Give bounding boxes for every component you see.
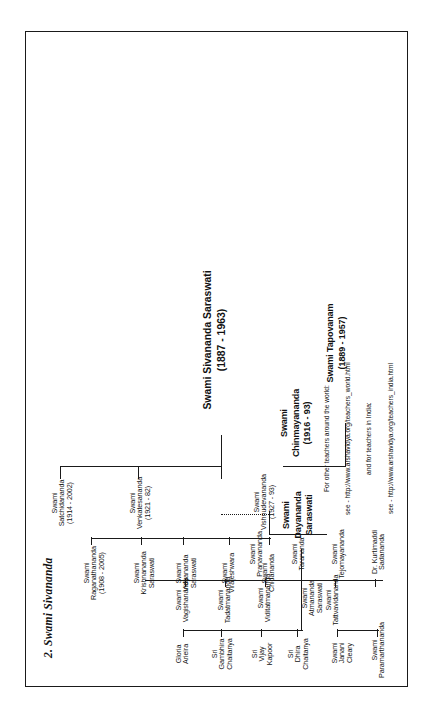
connector-gen3-stub-3 bbox=[229, 537, 230, 545]
connector-gen3-stub-0 bbox=[91, 537, 92, 545]
node-gen2-3: Swami Chinmayananda(1916 - 93) bbox=[279, 357, 314, 489]
node-disciple-3-name: Sri Dhira Chaitanya bbox=[286, 638, 310, 669]
node-disciple-11: Swami Janani Cleary bbox=[331, 627, 353, 679]
connector-disciple-a0 bbox=[183, 629, 184, 637]
connector-disciple-trunk-b bbox=[183, 580, 383, 581]
node-gen2-1-dates: (1921 - 82) bbox=[143, 486, 152, 520]
connector-gen3-trunk bbox=[91, 538, 271, 539]
node-root: Swami Sivananda Saraswati(1887 - 1963) bbox=[201, 245, 229, 435]
node-disciple-4: Swami Vagishananda bbox=[175, 569, 190, 631]
connector-dotted-chinmayananda bbox=[221, 514, 269, 515]
node-disciple-7: Swami Tattvavidananda bbox=[325, 567, 340, 633]
connector-disciple-trunk-a bbox=[183, 630, 303, 631]
node-disciple-7-name: Swami Tattvavidananda bbox=[324, 575, 340, 626]
connector-gen2-0 bbox=[60, 467, 61, 479]
node-disciple-11-name: Swami Janani Cleary bbox=[330, 642, 354, 663]
node-gen3-9: Dr. Kurtimaddi Sadananda bbox=[371, 517, 386, 587]
node-gen2-0: Swami Satchidananda (1914 - 2002) bbox=[51, 471, 73, 535]
connector-root-spine bbox=[221, 435, 222, 467]
footer-line-3: and for teachers in India: bbox=[364, 362, 375, 515]
connector-gen2-2 bbox=[221, 467, 222, 479]
connector-root-vertical bbox=[60, 466, 222, 467]
connector-disciple-a2 bbox=[261, 629, 262, 637]
connector-disciple-b1 bbox=[225, 579, 226, 587]
page-title: 2. Swami Sivananda bbox=[42, 558, 54, 658]
footer-line-1: For other teachers around the world: bbox=[322, 362, 333, 515]
connector-gen3-stub-1 bbox=[141, 537, 142, 545]
node-disciple-6: Swami Viditatmananda bbox=[257, 565, 272, 631]
node-root-name: Swami Sivananda Saraswati bbox=[202, 270, 213, 409]
connector-disciple-b4 bbox=[375, 579, 376, 587]
node-gen2-1: Swami Venkatesananda (1921 - 82) bbox=[129, 471, 151, 535]
node-disciple-1-name: Sri Gambhira Chaitanya bbox=[210, 638, 234, 669]
node-gen3-1-name: Swami Krishnananda Saraswati bbox=[132, 551, 156, 594]
node-gen3-0: Swami Raganathananda (1908 - 2005) bbox=[83, 539, 105, 607]
connector-gen3-stub-2 bbox=[183, 537, 184, 545]
connector-disciple-a1 bbox=[221, 629, 222, 637]
footer-line-4: see - http://www.arshavidya.org/teachers… bbox=[386, 362, 397, 515]
lineage-chart-canvas: 2. Swami Sivananda Swami Sivananda Saras… bbox=[25, 31, 406, 685]
node-gen3-7: Swami Atmananda Saraswati bbox=[301, 567, 323, 629]
node-gen3-7-name: Swami Atmananda Saraswati bbox=[300, 580, 324, 616]
connector-disciple-join bbox=[301, 581, 302, 631]
connector-chinmayananda-down bbox=[269, 511, 270, 535]
connector-disciple-b0 bbox=[185, 579, 186, 587]
node-gen3-9-name: Dr. Kurtimaddi Sadananda bbox=[370, 530, 386, 574]
connector-gen3-stub-4 bbox=[269, 537, 270, 545]
connector-disciple-trunk-c bbox=[337, 630, 379, 631]
node-root-dates: (1887 - 1963) bbox=[216, 309, 227, 371]
node-disciple-0-name: Gloria Arieira bbox=[174, 644, 190, 664]
connector-disciple-b3 bbox=[335, 579, 336, 587]
footer-line-2: see - http://www.arshavidya.org/teachers… bbox=[343, 362, 354, 515]
node-gen2-0-dates: (1914 - 2002) bbox=[65, 482, 74, 524]
connector-disciple-a3 bbox=[297, 629, 298, 637]
footer-note: For other teachers around the world: see… bbox=[311, 362, 407, 515]
node-gen3-0-dates: (1908 - 2005) bbox=[97, 552, 106, 594]
node-gen3-1: Swami Krishnananda Saraswati bbox=[133, 539, 155, 607]
node-gen2-3-name: Swami Chinmayananda bbox=[279, 389, 301, 457]
node-disciple-4-name: Swami Vagishananda bbox=[174, 578, 190, 622]
connector-disciple-b2 bbox=[265, 579, 266, 587]
node-dayananda-name: Swami Dayananda Saraswati bbox=[281, 491, 314, 538]
connector-gen2-1 bbox=[138, 467, 139, 479]
node-disciple-2-name: Sri Vijay Kapoor bbox=[250, 643, 274, 666]
